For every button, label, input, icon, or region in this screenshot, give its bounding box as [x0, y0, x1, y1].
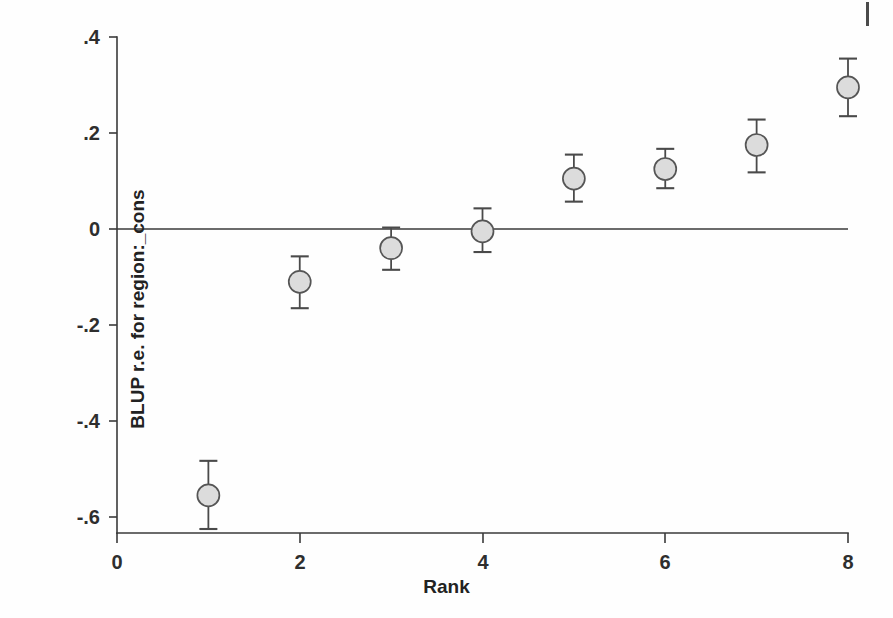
y-tick-label-3: -.2 [50, 314, 100, 337]
data-point-marker [654, 158, 676, 180]
y-tick-label-5: -.6 [50, 506, 100, 529]
data-point-group [197, 461, 219, 529]
data-point-group [563, 155, 585, 202]
data-point-marker [380, 237, 402, 259]
x-tick-label-3: 6 [659, 551, 670, 574]
y-tick-label-4: -.4 [50, 410, 100, 433]
x-tick-label-2: 4 [477, 551, 488, 574]
data-point-group [472, 208, 494, 252]
data-point-marker [472, 220, 494, 242]
data-point-group [746, 120, 768, 173]
data-point-group [654, 149, 676, 188]
x-axis-title: Rank [0, 576, 893, 598]
data-point-marker [837, 76, 859, 98]
data-point-group [289, 256, 311, 308]
x-axis-ticks [117, 533, 848, 543]
y-tick-label-2: 0 [50, 218, 100, 241]
scan-artifact-mark [866, 2, 869, 26]
y-tick-label-1: .2 [50, 122, 100, 145]
y-axis-title: BLUP r.e. for region:_cons [127, 189, 149, 428]
x-tick-label-0: 0 [111, 551, 122, 574]
x-tick-label-1: 2 [294, 551, 305, 574]
y-axis-ticks [109, 37, 117, 517]
chart-page: .4 .2 0 -.2 -.4 -.6 0 2 4 6 8 BLUP r.e. … [0, 0, 893, 618]
data-point-marker [746, 134, 768, 156]
y-tick-label-0: .4 [50, 26, 100, 49]
data-point-group [837, 59, 859, 117]
data-point-marker [289, 271, 311, 293]
data-point-group [380, 228, 402, 270]
data-point-marker [197, 484, 219, 506]
data-points-layer [197, 59, 859, 529]
data-point-marker [563, 168, 585, 190]
x-tick-label-4: 8 [842, 551, 853, 574]
